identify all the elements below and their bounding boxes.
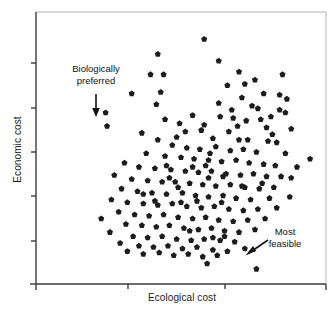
data-point [239,94,245,100]
data-point [194,198,200,204]
data-point [168,167,174,173]
data-point [268,114,274,120]
data-point [266,195,272,201]
biologically-preferred-arrow-icon [92,94,100,117]
data-point [253,149,259,155]
data-point [175,184,181,190]
data-point [284,96,290,102]
data-point [194,244,200,250]
data-point [235,123,241,129]
data-point [210,235,216,241]
data-point [140,201,146,207]
data-point [265,138,271,144]
data-point [124,248,130,254]
data-point [264,173,270,179]
data-point [282,109,288,115]
data-point [155,51,161,57]
data-point [224,248,230,254]
data-point [195,226,201,232]
data-point [175,214,181,220]
data-point [187,228,193,234]
data-point [152,165,158,171]
data-point [171,252,177,258]
data-point [145,235,151,241]
data-point [107,229,113,235]
data-point [197,146,203,152]
data-point [190,216,196,222]
data-point [240,146,246,152]
data-point [145,177,151,183]
data-point [224,82,230,88]
annotation-line-1: Biologically [60,63,132,75]
annotation-line-1: Most [256,226,314,238]
plot-canvas [0,0,334,314]
data-point [233,195,239,201]
data-point [219,199,225,205]
data-point [146,213,152,219]
data-point [111,172,117,178]
data-point [240,207,246,213]
data-point [178,154,184,160]
data-point [255,105,261,111]
data-point [252,77,258,83]
data-point [206,194,212,200]
data-point [182,128,188,134]
data-point [153,101,159,107]
data-point [220,192,226,198]
y-axis-ticks [30,63,36,284]
data-point [236,137,242,143]
data-point [216,217,222,223]
data-point [116,209,122,215]
data-point [206,175,212,181]
data-point [256,186,262,192]
data-point [262,216,268,222]
data-point [255,206,261,212]
data-point [139,222,145,228]
data-point [136,243,142,249]
data-point [121,160,127,166]
data-point [174,236,180,242]
data-point [165,243,171,249]
data-point [246,160,252,166]
data-point [129,176,135,182]
data-point [216,58,222,64]
data-point [123,221,129,227]
data-point [159,233,165,239]
data-point [250,171,256,177]
data-point [198,127,204,133]
data-point [210,247,216,253]
data-point [258,116,264,122]
data-point [230,218,236,224]
data-point [282,150,288,156]
data-point [161,211,167,217]
data-point [207,150,213,156]
data-point [239,183,245,189]
data-point [117,240,123,246]
data-point [188,237,194,243]
data-point [150,244,156,250]
data-point [213,143,219,149]
data-point [226,128,232,134]
data-point [140,251,146,257]
data-point [277,92,283,98]
data-point [237,172,243,178]
data-point [148,71,154,77]
data-point [203,214,209,220]
data-point [227,148,233,154]
data-point [214,252,220,258]
data-point [162,153,168,159]
data-point [274,205,280,211]
data-point [166,175,172,181]
data-point [219,158,225,164]
data-point [233,157,239,163]
data-point [217,114,223,120]
data-point [259,180,265,186]
data-point [236,69,242,75]
data-point [129,90,135,96]
data-point [271,184,277,190]
data-point [174,134,180,140]
data-point [161,71,167,77]
data-point [192,192,198,198]
data-point [242,81,248,87]
data-point [124,199,130,205]
